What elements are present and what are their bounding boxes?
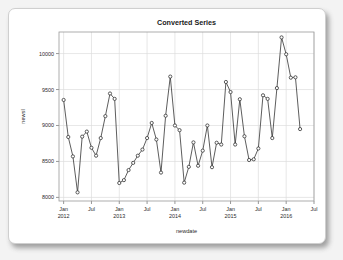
data-point bbox=[94, 154, 97, 157]
chart-title: Converted Series bbox=[157, 18, 216, 27]
data-point bbox=[252, 158, 255, 161]
y-tick-label: 8500 bbox=[42, 158, 54, 164]
x-tick-year-label: 2013 bbox=[113, 213, 125, 219]
x-tick-year-label: 2015 bbox=[225, 213, 237, 219]
data-point bbox=[118, 181, 121, 184]
data-point bbox=[159, 171, 162, 174]
data-point bbox=[257, 147, 260, 150]
data-point bbox=[155, 138, 158, 141]
x-tick-label: Jul bbox=[144, 206, 151, 212]
data-point bbox=[289, 76, 292, 79]
data-point bbox=[150, 121, 153, 124]
data-point bbox=[85, 130, 88, 133]
data-point bbox=[187, 165, 190, 168]
y-axis-title: newsl bbox=[20, 109, 26, 123]
chart-plot-area: 800085009000950010000 Jan2012JulJan2013J… bbox=[9, 9, 325, 243]
x-axis-title: newdate bbox=[176, 228, 197, 234]
x-tick-label: Jul bbox=[199, 206, 206, 212]
x-tick-label: Jul bbox=[255, 206, 262, 212]
data-point bbox=[206, 124, 209, 127]
data-point bbox=[178, 129, 181, 132]
data-point bbox=[210, 166, 213, 169]
y-tick-label: 8000 bbox=[42, 194, 54, 200]
data-point-markers bbox=[62, 36, 302, 194]
data-point bbox=[81, 135, 84, 138]
data-point bbox=[238, 98, 241, 101]
data-point bbox=[280, 36, 283, 39]
x-tick-year-label: 2016 bbox=[280, 213, 292, 219]
data-point bbox=[201, 149, 204, 152]
chart-card: 800085009000950010000 Jan2012JulJan2013J… bbox=[8, 8, 326, 244]
x-tick-label: Jan bbox=[171, 206, 180, 212]
y-axis-tick-labels: 800085009000950010000 bbox=[39, 51, 54, 201]
data-point bbox=[183, 181, 186, 184]
y-tick-label: 9500 bbox=[42, 87, 54, 93]
series-line bbox=[64, 37, 300, 192]
y-tick-label: 9000 bbox=[42, 122, 54, 128]
data-point bbox=[113, 97, 116, 100]
data-point bbox=[71, 155, 74, 158]
data-point bbox=[196, 164, 199, 167]
data-point bbox=[141, 148, 144, 151]
x-tick-label: Jan bbox=[115, 206, 124, 212]
data-point bbox=[173, 124, 176, 127]
data-point bbox=[298, 127, 301, 130]
data-point bbox=[136, 154, 139, 157]
data-point bbox=[145, 136, 148, 139]
data-point bbox=[220, 143, 223, 146]
data-point bbox=[169, 75, 172, 78]
data-point bbox=[234, 143, 237, 146]
x-tick-label: Jan bbox=[226, 206, 235, 212]
data-point bbox=[275, 86, 278, 89]
data-point bbox=[229, 90, 232, 93]
data-point bbox=[132, 161, 135, 164]
x-tick-label: Jul bbox=[88, 206, 95, 212]
data-point bbox=[215, 141, 218, 144]
data-point bbox=[104, 115, 107, 118]
data-point bbox=[99, 136, 102, 139]
data-point bbox=[261, 94, 264, 97]
data-point bbox=[127, 168, 130, 171]
x-tick-year-label: 2012 bbox=[58, 213, 70, 219]
data-point bbox=[224, 80, 227, 83]
x-axis-tick-labels: Jan2012JulJan2013JulJan2014JulJan2015Jul… bbox=[58, 206, 318, 219]
data-point bbox=[294, 76, 297, 79]
data-point bbox=[164, 114, 167, 117]
data-point bbox=[76, 191, 79, 194]
data-point bbox=[62, 98, 65, 101]
data-point bbox=[122, 179, 125, 182]
data-point bbox=[108, 92, 111, 95]
x-tick-year-label: 2014 bbox=[169, 213, 181, 219]
x-tick-label: Jul bbox=[311, 206, 318, 212]
data-point bbox=[247, 158, 250, 161]
data-point bbox=[67, 135, 70, 138]
data-point bbox=[90, 146, 93, 149]
data-point bbox=[285, 53, 288, 56]
y-tick-label: 10000 bbox=[39, 51, 54, 57]
data-point bbox=[266, 97, 269, 100]
line-chart: 800085009000950010000 Jan2012JulJan2013J… bbox=[9, 9, 325, 243]
x-tick-label: Jan bbox=[59, 206, 68, 212]
x-tick-label: Jan bbox=[282, 206, 291, 212]
data-point bbox=[192, 141, 195, 144]
data-point bbox=[243, 135, 246, 138]
data-point bbox=[271, 136, 274, 139]
